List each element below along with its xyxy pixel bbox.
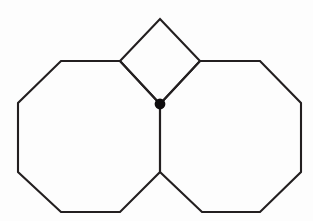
top-square (120, 19, 200, 104)
right-octagon (160, 61, 301, 212)
geometry-diagram (0, 0, 313, 221)
left-octagon (18, 61, 160, 212)
figure-canvas (0, 0, 313, 221)
shared-vertex-dot (155, 99, 166, 110)
